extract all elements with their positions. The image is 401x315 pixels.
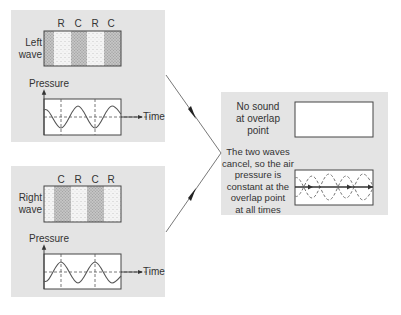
cancellation-explanation: The two waves cancel, so the air pressur… (221, 146, 295, 215)
left-pressure-axis-label: Pressure (29, 78, 69, 90)
left-wave-bands (44, 31, 121, 66)
left-wave-label: Left wave (11, 37, 42, 61)
right-pressure-graph (44, 247, 150, 289)
left-band-letter: C (106, 18, 116, 30)
left-band-letter: C (73, 18, 83, 30)
right-pressure-axis-label: Pressure (29, 233, 69, 245)
left-pressure-graph (44, 92, 150, 135)
right-wave-label: Right wave (11, 192, 42, 216)
right-band-letter: C (90, 174, 100, 186)
left-band-letter: R (90, 18, 100, 30)
converging-arrows (166, 75, 221, 232)
left-time-axis-label: Time (143, 111, 165, 123)
right-wave-bands (44, 186, 121, 222)
diagram-graphics (0, 0, 401, 315)
no-sound-caption: No sound at overlap point (224, 101, 292, 137)
right-time-axis-label: Time (143, 266, 165, 278)
left-band-letter: R (56, 18, 66, 30)
right-band-letter: C (56, 174, 66, 186)
right-band-letter: R (106, 174, 116, 186)
right-band-letter: R (73, 174, 83, 186)
cancelled-waves-box (295, 170, 373, 205)
no-sound-box (295, 102, 373, 137)
